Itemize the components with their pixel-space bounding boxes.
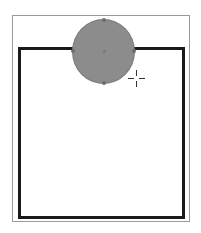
crosshair-cursor-icon	[128, 70, 145, 87]
drawing-canvas[interactable]	[0, 0, 201, 233]
resize-handle-right[interactable]	[132, 49, 136, 53]
center-point	[103, 50, 106, 53]
resize-handle-top[interactable]	[102, 18, 106, 22]
resize-handle-left[interactable]	[71, 49, 75, 53]
resize-handle-bottom[interactable]	[102, 81, 106, 85]
circle-shape[interactable]	[72, 19, 135, 84]
